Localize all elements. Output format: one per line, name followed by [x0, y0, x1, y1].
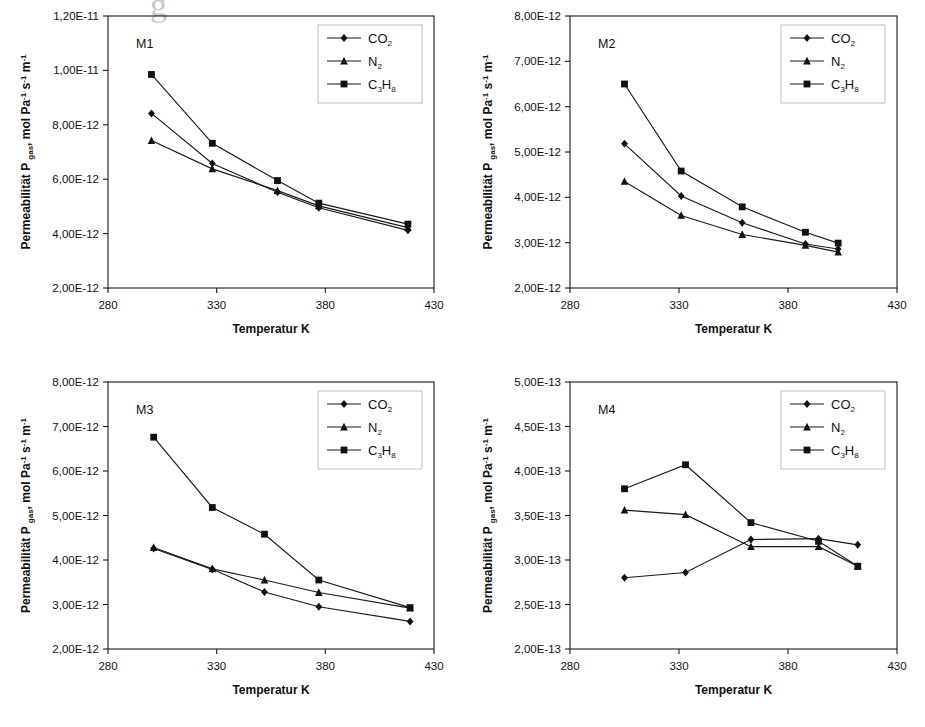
- y-axis-title: Permeabilität P gas, mol Pa-1 s-1 m-1: [481, 417, 497, 613]
- data-point-C3H8: [315, 577, 322, 584]
- y-axis-title: Permeabilität P gas, mol Pa-1 s-1 m-1: [19, 54, 35, 250]
- chart-panel-m1: 2,00E-124,00E-126,00E-128,00E-121,00E-11…: [0, 0, 462, 366]
- chart-panel-m4: 2,00E-132,50E-133,00E-133,50E-134,00E-13…: [462, 366, 925, 727]
- data-point-C3H8: [148, 71, 155, 78]
- x-tick-label: 330: [669, 299, 688, 311]
- x-tick-label: 380: [778, 660, 797, 672]
- x-axis-title: Temperatur K: [232, 322, 309, 336]
- data-point-C3H8: [854, 563, 861, 570]
- series-line-C3H8: [625, 465, 858, 566]
- y-tick-label: 5,00E-13: [514, 376, 561, 388]
- chart-panel-m3: 2,00E-123,00E-124,00E-125,00E-126,00E-12…: [0, 366, 462, 727]
- svg-text:Permeabilität P gas, mol Pa-1: Permeabilität P gas, mol Pa-1 s-1 m-1: [481, 417, 497, 613]
- data-point-C3H8: [209, 140, 216, 147]
- y-tick-label: 5,00E-12: [52, 510, 99, 522]
- data-point-N2: [621, 506, 629, 514]
- panel-label: M2: [598, 37, 615, 51]
- data-point-N2: [150, 543, 158, 551]
- data-point-C3H8: [748, 519, 755, 526]
- y-tick-label: 6,00E-12: [52, 465, 99, 477]
- series-line-N2: [154, 548, 410, 609]
- legend: CO2N2C3H8: [318, 391, 422, 469]
- y-tick-label: 1,00E-11: [53, 64, 99, 76]
- data-point-CO2: [407, 617, 414, 625]
- data-point-CO2: [682, 568, 689, 576]
- legend-marker-square: [341, 447, 348, 454]
- y-tick-label: 2,00E-12: [52, 282, 99, 294]
- series-markers-C3H8: [621, 461, 861, 569]
- data-point-CO2: [621, 574, 628, 582]
- series-line-CO2: [151, 113, 407, 230]
- x-tick-label: 430: [424, 299, 443, 311]
- data-point-C3H8: [261, 531, 268, 538]
- data-point-CO2: [315, 603, 322, 611]
- data-point-C3H8: [682, 461, 689, 468]
- x-tick-label: 330: [207, 660, 226, 672]
- data-point-C3H8: [274, 177, 281, 184]
- series-markers-CO2: [621, 140, 841, 253]
- chart-svg-M1: 2,00E-124,00E-126,00E-128,00E-121,00E-11…: [0, 0, 462, 366]
- y-tick-label: 4,00E-12: [52, 228, 99, 240]
- series-markers-C3H8: [621, 81, 841, 247]
- svg-text:Permeabilität P gas, mol Pa-1: Permeabilität P gas, mol Pa-1 s-1 m-1: [481, 54, 497, 250]
- data-point-N2: [621, 177, 629, 185]
- data-point-C3H8: [802, 229, 809, 236]
- x-tick-label: 330: [669, 660, 688, 672]
- data-point-C3H8: [739, 203, 746, 210]
- series-markers-N2: [621, 177, 842, 255]
- panel-label: M1: [136, 37, 153, 51]
- y-tick-label: 6,00E-12: [52, 173, 99, 185]
- x-tick-label: 280: [560, 299, 579, 311]
- y-tick-label: 4,00E-13: [514, 465, 561, 477]
- legend: CO2N2C3H8: [318, 25, 422, 103]
- data-point-C3H8: [678, 168, 685, 175]
- chart-grid: 2,00E-124,00E-126,00E-128,00E-121,00E-11…: [0, 0, 925, 727]
- chart-panel-m2: 2,00E-123,00E-124,00E-125,00E-126,00E-12…: [462, 0, 925, 366]
- svg-text:Permeabilität P gas, mol Pa-1: Permeabilität P gas, mol Pa-1 s-1 m-1: [19, 417, 35, 613]
- y-tick-label: 5,00E-12: [514, 146, 561, 158]
- chart-svg-M3: 2,00E-123,00E-124,00E-125,00E-126,00E-12…: [0, 366, 462, 727]
- x-tick-label: 280: [98, 660, 117, 672]
- data-point-C3H8: [835, 240, 842, 247]
- y-tick-label: 8,00E-12: [52, 119, 99, 131]
- chart-svg-M4: 2,00E-132,50E-133,00E-133,50E-134,00E-13…: [462, 366, 925, 727]
- data-point-C3H8: [815, 538, 822, 545]
- y-axis-title: Permeabilität P gas, mol Pa-1 s-1 m-1: [481, 54, 497, 250]
- y-tick-label: 1,20E-11: [53, 10, 99, 22]
- series-markers-CO2: [150, 544, 413, 625]
- series-markers-N2: [150, 543, 414, 611]
- y-tick-label: 4,00E-12: [52, 554, 99, 566]
- data-point-C3H8: [621, 485, 628, 492]
- panel-label: M3: [136, 403, 153, 417]
- data-point-C3H8: [150, 434, 157, 441]
- y-tick-label: 8,00E-12: [52, 376, 99, 388]
- x-axis-title: Temperatur K: [232, 683, 309, 697]
- data-point-C3H8: [407, 604, 414, 611]
- y-tick-label: 8,00E-12: [514, 10, 561, 22]
- data-point-CO2: [748, 536, 755, 544]
- series-line-N2: [625, 510, 858, 566]
- svg-text:Permeabilität P gas, mol Pa-1: Permeabilität P gas, mol Pa-1 s-1 m-1: [19, 54, 35, 250]
- y-tick-label: 7,00E-12: [52, 421, 99, 433]
- x-tick-label: 380: [778, 299, 797, 311]
- y-tick-label: 6,00E-12: [514, 101, 561, 113]
- chart-svg-M2: 2,00E-123,00E-124,00E-125,00E-126,00E-12…: [462, 0, 925, 366]
- legend-marker-square: [804, 81, 811, 88]
- data-point-N2: [677, 211, 685, 219]
- x-tick-label: 380: [316, 660, 335, 672]
- y-tick-label: 2,00E-13: [514, 643, 561, 655]
- y-tick-label: 4,00E-12: [514, 191, 561, 203]
- data-point-N2: [148, 136, 156, 144]
- y-axis-title: Permeabilität P gas, mol Pa-1 s-1 m-1: [19, 417, 35, 613]
- series-line-C3H8: [625, 84, 839, 243]
- series-line-CO2: [154, 548, 410, 621]
- y-tick-label: 3,00E-12: [514, 237, 561, 249]
- legend-marker-square: [804, 447, 811, 454]
- y-tick-label: 2,50E-13: [514, 599, 561, 611]
- data-point-CO2: [148, 109, 155, 117]
- legend: CO2N2C3H8: [781, 391, 885, 469]
- x-tick-label: 430: [424, 660, 443, 672]
- legend: CO2N2C3H8: [781, 25, 885, 103]
- x-axis-title: Temperatur K: [695, 683, 772, 697]
- data-point-N2: [209, 165, 217, 173]
